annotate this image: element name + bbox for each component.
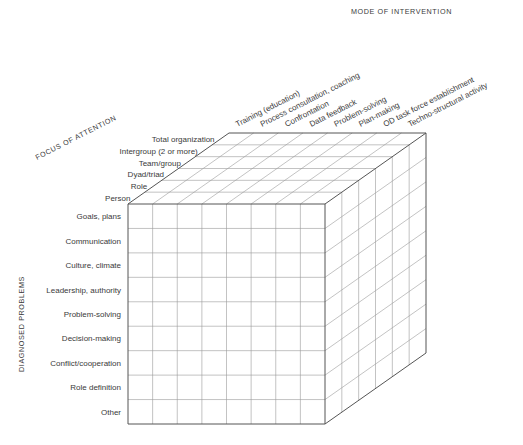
focus-label: Role <box>131 182 148 191</box>
od-cube-diagram: MODE OF INTERVENTION FOCUS OF ATTENTION … <box>0 0 523 445</box>
mode-of-intervention-title: MODE OF INTERVENTION <box>351 7 452 16</box>
problem-label: Culture, climate <box>65 261 121 270</box>
problem-label: Goals, plans <box>77 212 121 221</box>
cube-grid <box>128 133 426 424</box>
focus-label: Intergroup (2 or more) <box>119 147 198 156</box>
problem-label: Other <box>101 408 121 417</box>
focus-label: Total organization <box>152 135 215 144</box>
diagnosed-problems-title: DIAGNOSED PROBLEMS <box>17 276 26 372</box>
focus-of-attention-title: FOCUS OF ATTENTION <box>34 113 118 162</box>
focus-label: Dyad/triad <box>128 170 164 179</box>
cube-edges <box>128 133 426 424</box>
focus-label: Person <box>105 194 130 203</box>
problem-label: Conflict/cooperation <box>50 359 121 368</box>
problem-label: Leadership, authority <box>46 286 121 295</box>
problem-label: Problem-solving <box>64 310 121 319</box>
diagnosed-problems-labels: Goals, plans Communication Culture, clim… <box>46 212 121 417</box>
focus-of-attention-labels: Total organization Intergroup (2 or more… <box>105 135 215 203</box>
problem-label: Communication <box>65 237 121 246</box>
mode-of-intervention-labels: Training (education) Process consultatio… <box>234 71 489 129</box>
focus-label: Team/group <box>139 159 182 168</box>
problem-label: Decision-making <box>62 334 121 343</box>
problem-label: Role definition <box>70 383 121 392</box>
